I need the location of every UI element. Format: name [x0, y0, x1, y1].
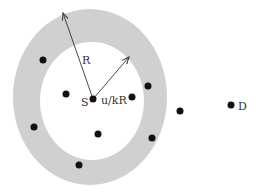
- node-ring: [76, 162, 83, 169]
- destination-label: D: [238, 100, 247, 113]
- node-source: [90, 96, 97, 103]
- node-ring: [31, 124, 38, 131]
- node-destination: [228, 102, 235, 109]
- node-inner: [95, 131, 102, 138]
- node-outside: [177, 108, 184, 115]
- inner-radius-label: u/kR: [101, 94, 127, 107]
- node-ring: [40, 57, 47, 64]
- node-ring: [145, 83, 152, 90]
- outer-radius-label: R: [82, 54, 91, 67]
- node-ring: [149, 135, 156, 142]
- node-inner: [129, 94, 136, 101]
- annulus-diagram: R u/kR S D: [0, 0, 259, 192]
- node-inner: [63, 91, 70, 98]
- source-label: S: [81, 96, 89, 109]
